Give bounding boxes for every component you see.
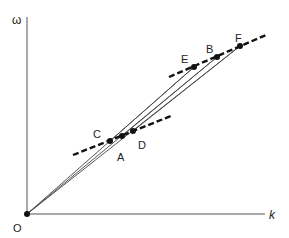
point-label-e: E [181, 53, 188, 65]
point-e [191, 64, 197, 70]
point-label-o: O [13, 222, 22, 234]
point-o [24, 211, 30, 217]
dispersion-diagram: OCADEBF ω k [0, 0, 289, 238]
y-axis-label: ω [12, 13, 21, 27]
x-axis-label: k [269, 208, 276, 222]
dashed-tangent-lines [73, 35, 266, 155]
point-label-a: A [117, 151, 125, 163]
point-b [214, 54, 220, 60]
point-d [130, 128, 136, 134]
point-a [119, 133, 125, 139]
point-label-c: C [93, 128, 101, 140]
point-c [107, 138, 113, 144]
point-label-f: F [235, 32, 242, 44]
point-label-b: B [206, 43, 213, 55]
point-label-d: D [138, 139, 146, 151]
